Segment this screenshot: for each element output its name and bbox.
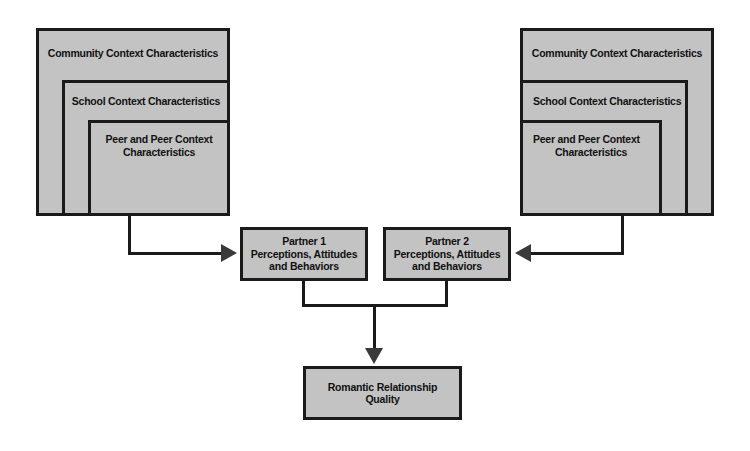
partner2-box: Partner 2 Perceptions, Attitudes and Beh… — [383, 227, 511, 281]
outcome-arrowhead — [365, 348, 383, 364]
right-peer-context-box: Peer and Peer Context Characteristics — [520, 120, 662, 216]
outcome-line1: Romantic Relationship — [328, 381, 438, 393]
left-community-context-label: Community Context Characteristics — [39, 47, 227, 59]
right-to-partner2-arrowhead — [515, 244, 531, 262]
outcome-line2: Quality — [328, 393, 438, 405]
left-connector-vertical — [128, 216, 131, 255]
partner1-line3: and Behaviors — [251, 260, 358, 272]
right-peer-context-label-line1: Peer and Peer Context — [533, 133, 703, 145]
right-connector-vertical — [621, 216, 624, 255]
left-peer-context-label-line1: Peer and Peer Context — [91, 133, 227, 145]
partner1-line1: Partner 1 — [251, 235, 358, 247]
outcome-box: Romantic Relationship Quality — [303, 366, 462, 420]
left-peer-context-box: Peer and Peer Context Characteristics — [88, 120, 230, 216]
right-peer-context-label-line2: Characteristics — [523, 146, 659, 158]
left-connector-horizontal — [128, 252, 221, 255]
left-school-context-label: School Context Characteristics — [65, 95, 227, 107]
left-to-partner1-arrowhead — [221, 244, 237, 262]
partner1-line2: Perceptions, Attitudes — [251, 248, 358, 260]
outcome-feed-line — [373, 304, 376, 350]
partner2-line1: Partner 2 — [394, 235, 501, 247]
left-peer-context-label-line2: Characteristics — [91, 146, 227, 158]
right-connector-horizontal — [531, 252, 624, 255]
partner2-line3: and Behaviors — [394, 260, 501, 272]
right-school-context-label: School Context Characteristics — [533, 95, 703, 107]
partner2-line2: Perceptions, Attitudes — [394, 248, 501, 260]
diagram-canvas: Community Context Characteristics School… — [0, 0, 750, 451]
partner1-box: Partner 1 Perceptions, Attitudes and Beh… — [240, 227, 368, 281]
right-community-context-label: Community Context Characteristics — [523, 47, 711, 59]
